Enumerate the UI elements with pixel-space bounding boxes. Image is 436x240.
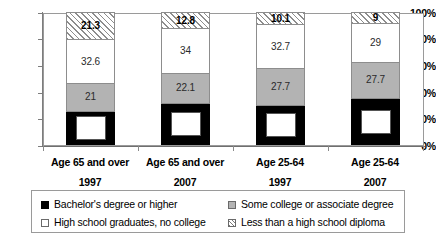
hatched-square-icon [228,219,236,227]
segment-label: 34 [180,46,191,56]
stacked-bar-chart: 100% 80% 60% 40% 20% 0% 21.3 32.6 21 [0,0,436,240]
bar-age2564-2007[interactable]: 9 29 27.7 [351,12,400,145]
segment-label-box [76,116,106,140]
segment-label: 21.3 [81,21,100,31]
legend-item-hs-graduates[interactable]: High school graduates, no college [41,217,206,228]
segment-label: 12.8 [176,16,195,26]
segment-label-box [361,110,391,134]
segment-some-college[interactable]: 22.1 [161,74,210,103]
category-group: Age 25-64 [351,156,399,168]
segment-hs-graduates[interactable]: 32.7 [256,25,305,68]
bar-age2564-1997[interactable]: 10.1 32.7 27.7 [256,12,305,145]
segment-bachelors[interactable] [351,99,400,145]
category-group: Age 25-64 [256,156,304,168]
segment-less-than-hs[interactable]: 12.8 [161,12,210,29]
segment-some-college[interactable]: 27.7 [351,63,400,100]
legend-label: High school graduates, no college [54,217,206,228]
category-year: 2007 [315,176,435,188]
legend-label: Some college or associate degree [241,199,393,210]
legend-item-less-than-hs[interactable]: Less than a high school diploma [228,217,385,228]
x-tick-mark [138,146,139,151]
segment-label: 9 [373,13,378,23]
segment-label: 27.7 [271,82,290,92]
segment-hs-graduates[interactable]: 29 [351,24,400,63]
segment-some-college[interactable]: 21 [66,84,115,112]
black-square-icon [41,201,49,209]
plot-area: 21.3 32.6 21 12.8 34 22.1 [43,13,424,146]
segment-label: 27.7 [366,75,385,85]
segment-less-than-hs[interactable]: 10.1 [256,12,305,25]
segment-bachelors[interactable] [66,112,115,145]
segment-less-than-hs[interactable]: 9 [351,12,400,24]
segment-label-box [266,113,296,137]
x-category-label-4: Age 25-64 2007 [315,156,435,188]
segment-label: 22.1 [176,83,195,93]
x-tick-mark [233,146,234,151]
segment-label: 32.6 [81,57,100,67]
category-group: Age 65 and over [51,156,129,168]
category-group: Age 65 and over [146,156,224,168]
segment-label: 32.7 [271,42,290,52]
x-tick-mark [328,146,329,151]
bar-age65-2007[interactable]: 12.8 34 22.1 [161,12,210,145]
legend-label: Less than a high school diploma [241,217,385,228]
segment-hs-graduates[interactable]: 32.6 [66,40,115,83]
segment-bachelors[interactable] [161,104,210,145]
x-tick-mark [423,146,424,151]
legend-item-some-college[interactable]: Some college or associate degree [228,199,393,210]
segment-label: 29 [370,38,381,48]
x-tick-mark [43,146,44,151]
white-square-icon [41,219,49,227]
segment-hs-graduates[interactable]: 34 [161,29,210,74]
legend: Bachelor's degree or higher Some college… [31,190,405,233]
gray-square-icon [228,201,236,209]
segment-less-than-hs[interactable]: 21.3 [66,12,115,40]
segment-bachelors[interactable] [256,106,305,145]
legend-label: Bachelor's degree or higher [54,199,177,210]
bar-age65-1997[interactable]: 21.3 32.6 21 [66,12,115,145]
segment-label: 21 [85,92,96,102]
segment-label-box [171,112,201,136]
segment-some-college[interactable]: 27.7 [256,69,305,106]
legend-item-bachelors[interactable]: Bachelor's degree or higher [41,199,177,210]
segment-label: 10.1 [271,14,290,24]
